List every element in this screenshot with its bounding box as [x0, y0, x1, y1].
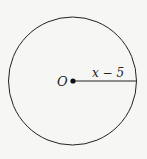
center-label: O — [57, 74, 68, 89]
radius-label: x − 5 — [92, 66, 124, 80]
circle-diagram: O x − 5 — [0, 0, 147, 159]
center-point — [70, 78, 75, 83]
